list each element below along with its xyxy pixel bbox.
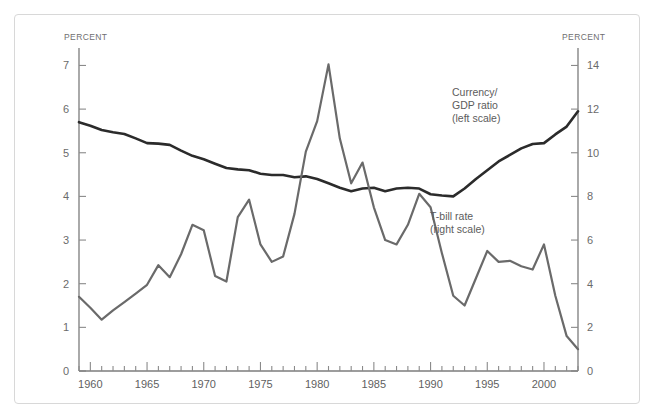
x-tick-label: 1985 bbox=[362, 378, 386, 390]
tbill-label: T-bill rate(right scale) bbox=[430, 210, 485, 235]
left-tick-label: 3 bbox=[63, 234, 69, 246]
x-axis-group: 196019651970197519801985199019952000 bbox=[78, 362, 578, 390]
x-tick-label: 1960 bbox=[78, 378, 102, 390]
currency-gdp-ratio-line bbox=[79, 111, 578, 196]
currency-gdp-label: Currency/GDP ratio(left scale) bbox=[452, 86, 500, 124]
x-tick-label: 1980 bbox=[305, 378, 329, 390]
economic-line-chart: PERCENT 01234567 PERCENT 02468101214 196… bbox=[0, 0, 656, 418]
tbill-label-line: T-bill rate bbox=[430, 210, 473, 222]
left-tick-label: 5 bbox=[63, 147, 69, 159]
right-tick-label: 12 bbox=[587, 103, 599, 115]
right-tick-label: 0 bbox=[587, 365, 593, 377]
left-axis-ticks: 01234567 bbox=[63, 59, 86, 377]
annotation-layer: Currency/GDP ratio(left scale)T-bill rat… bbox=[430, 86, 500, 235]
right-tick-label: 6 bbox=[587, 234, 593, 246]
left-axis-group: PERCENT 01234567 bbox=[63, 32, 108, 377]
x-tick-label: 1965 bbox=[135, 378, 159, 390]
left-tick-label: 6 bbox=[63, 103, 69, 115]
left-tick-label: 1 bbox=[63, 321, 69, 333]
currency-gdp-label-line: GDP ratio bbox=[452, 99, 498, 111]
tbill-label-line: (right scale) bbox=[430, 223, 485, 235]
right-axis-group: PERCENT 02468101214 bbox=[562, 32, 605, 377]
right-tick-label: 10 bbox=[587, 147, 599, 159]
left-tick-label: 0 bbox=[63, 365, 69, 377]
right-tick-label: 8 bbox=[587, 190, 593, 202]
right-tick-label: 2 bbox=[587, 321, 593, 333]
left-tick-label: 4 bbox=[63, 190, 69, 202]
currency-gdp-label-line: Currency/ bbox=[452, 86, 498, 98]
left-axis-title: PERCENT bbox=[64, 32, 107, 42]
x-tick-label: 1970 bbox=[192, 378, 216, 390]
x-axis-ticks bbox=[79, 362, 578, 371]
x-axis-tick-labels: 196019651970197519801985199019952000 bbox=[78, 378, 556, 390]
x-tick-label: 1990 bbox=[418, 378, 442, 390]
series-layer bbox=[79, 64, 578, 349]
x-tick-label: 1995 bbox=[475, 378, 499, 390]
left-tick-label: 7 bbox=[63, 59, 69, 71]
x-tick-label: 1975 bbox=[248, 378, 272, 390]
currency-gdp-label-line: (left scale) bbox=[452, 112, 500, 124]
right-axis-ticks: 02468101214 bbox=[571, 59, 599, 377]
right-axis-title: PERCENT bbox=[562, 32, 605, 42]
left-tick-label: 2 bbox=[63, 278, 69, 290]
right-tick-label: 4 bbox=[587, 278, 593, 290]
tbill-rate-line bbox=[79, 64, 578, 349]
right-tick-label: 14 bbox=[587, 59, 599, 71]
x-tick-label: 2000 bbox=[532, 378, 556, 390]
